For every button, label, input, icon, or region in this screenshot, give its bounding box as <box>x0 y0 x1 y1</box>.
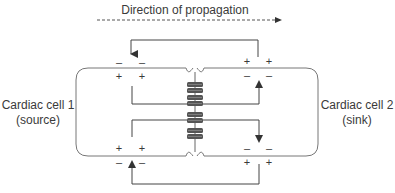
charge-plus: + <box>139 142 145 154</box>
cell-2-name: Cardiac cell 2 <box>321 98 394 112</box>
charge-plus: + <box>139 70 145 82</box>
propagation-arrow-icon <box>97 17 282 23</box>
gap-junction-diagram: Direction of propagation <box>0 0 395 193</box>
cell-1-role: (source) <box>16 113 60 127</box>
charge-minus: – <box>139 156 146 168</box>
cardiac-cell-2-membrane <box>197 68 318 156</box>
upper-intracellular-current-path-right <box>203 88 259 104</box>
charge-plus: + <box>266 55 272 67</box>
arrow-up-icon <box>255 80 263 88</box>
top-extracellular-current-path <box>131 40 258 57</box>
cell-2-role: (sink) <box>342 113 371 127</box>
charge-plus: + <box>244 55 250 67</box>
gap-junction-channels <box>187 72 203 152</box>
charge-minus: – <box>266 69 273 81</box>
arrow-down-icon <box>255 135 263 143</box>
bottom-extracellular-current-path <box>132 164 259 184</box>
charge-minus: – <box>244 142 251 154</box>
charge-minus: – <box>116 56 123 68</box>
propagation-title: Direction of propagation <box>121 3 248 17</box>
lower-intracellular-current-path-right <box>203 120 259 136</box>
lower-intracellular-current-path-left <box>132 120 187 137</box>
charge-minus: – <box>244 69 251 81</box>
charge-plus: + <box>266 156 272 168</box>
upper-intracellular-current-path-left <box>132 86 187 104</box>
charge-minus: – <box>116 156 123 168</box>
cell-1-name: Cardiac cell 1 <box>2 98 75 112</box>
arrow-up-icon <box>128 160 136 168</box>
charge-plus: + <box>244 156 250 168</box>
charge-plus: + <box>116 70 122 82</box>
charge-minus: – <box>266 142 273 154</box>
charge-minus: – <box>139 56 146 68</box>
charge-plus: + <box>116 142 122 154</box>
cardiac-cell-1-membrane <box>76 68 193 156</box>
